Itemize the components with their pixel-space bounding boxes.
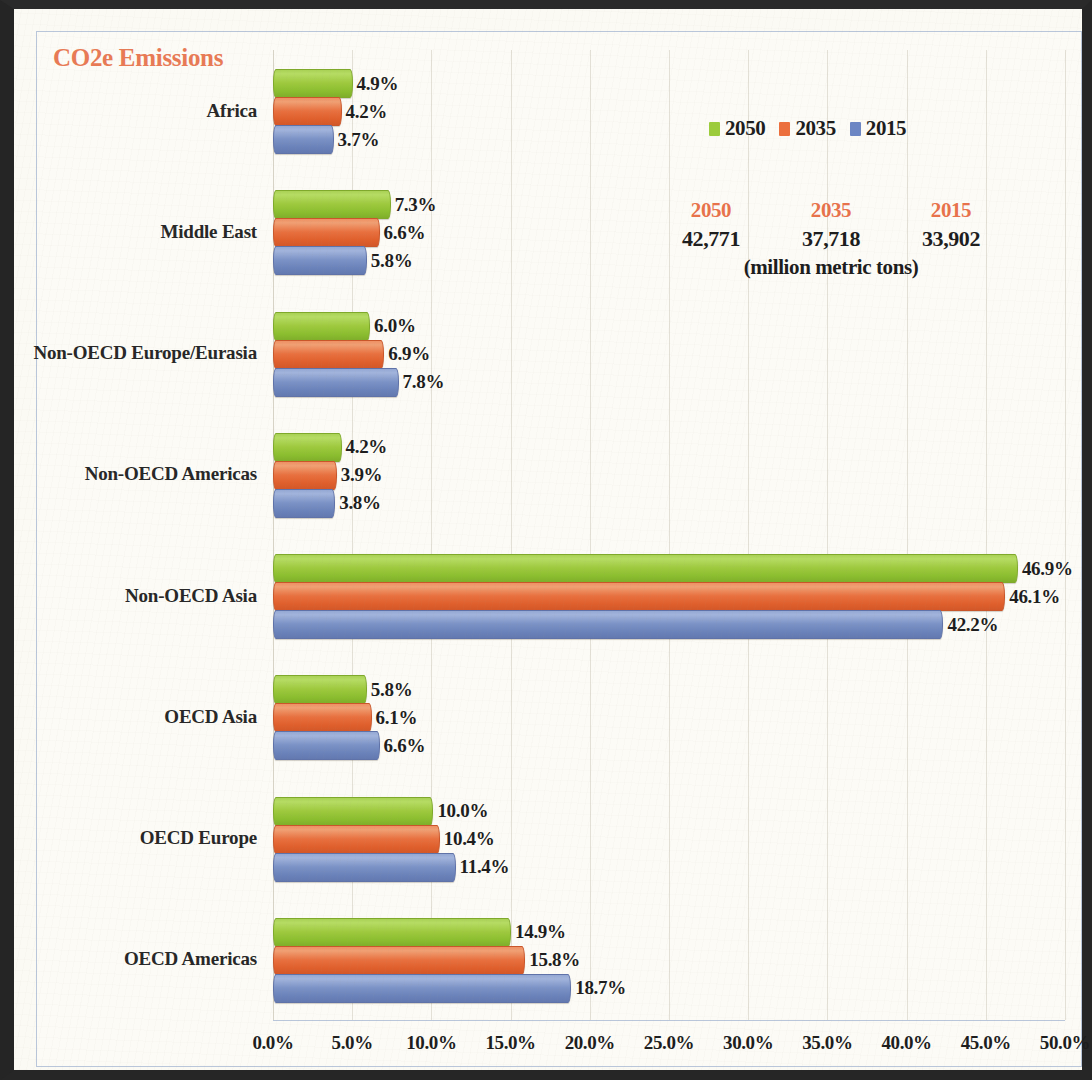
x-axis-tick: 15.0% [485, 1032, 535, 1054]
legend-label: 2050 [725, 116, 765, 141]
bar-value-label: 6.6% [384, 222, 426, 244]
gridline [1065, 50, 1066, 1020]
bar-value-label: 15.8% [529, 949, 580, 971]
legend-swatch-icon [779, 122, 790, 136]
bar-value-label: 4.2% [346, 101, 388, 123]
legend-item-2015[interactable]: 2015 [850, 116, 906, 141]
totals-value: 33,902 [891, 226, 1011, 252]
bar-group: Non-OECD Americas4.2%3.9%3.8% [273, 433, 1065, 516]
x-axis-tick: 0.0% [252, 1032, 293, 1054]
totals-value: 37,718 [771, 226, 891, 252]
bar-row: 4.9% [273, 69, 1065, 96]
bar-2015[interactable]: 3.7% [273, 125, 334, 154]
category-label: Non-OECD Europe/Eurasia [33, 342, 257, 364]
legend-label: 2015 [866, 116, 906, 141]
bar-2015[interactable]: 6.6% [273, 731, 380, 760]
bar-group: Non-OECD Europe/Eurasia6.0%6.9%7.8% [273, 312, 1065, 395]
bar-row: 6.1% [273, 703, 1065, 730]
bar-row: 3.9% [273, 461, 1065, 488]
bar-group: OECD Asia5.8%6.1%6.6% [273, 675, 1065, 758]
bar-value-label: 10.4% [444, 828, 495, 850]
x-axis-tick: 45.0% [961, 1032, 1011, 1054]
totals-annotation: 205020352015 42,77137,71833,902 (million… [651, 198, 1011, 280]
category-label: Middle East [160, 221, 257, 243]
bar-value-label: 5.8% [371, 250, 413, 272]
bar-value-label: 6.1% [376, 707, 418, 729]
paper-surface: CO2e Emissions Africa4.9%4.2%3.7%Middle … [14, 9, 1082, 1070]
bar-value-label: 3.9% [341, 464, 383, 486]
bar-2050[interactable]: 14.9% [273, 918, 511, 947]
bar-row: 6.6% [273, 731, 1065, 758]
bar-2050[interactable]: 7.3% [273, 190, 391, 219]
bar-value-label: 7.8% [403, 371, 445, 393]
legend-swatch-icon [850, 122, 861, 136]
totals-year-label: 2015 [891, 198, 1011, 223]
bar-row: 14.9% [273, 918, 1065, 945]
x-axis-tick: 25.0% [644, 1032, 694, 1054]
bar-value-label: 3.8% [339, 492, 381, 514]
legend-item-2035[interactable]: 2035 [779, 116, 835, 141]
bar-row: 3.7% [273, 125, 1065, 152]
bar-row: 10.0% [273, 797, 1065, 824]
bar-value-label: 11.4% [460, 856, 510, 878]
bar-2035[interactable]: 6.6% [273, 218, 380, 247]
bar-2015[interactable]: 3.8% [273, 489, 335, 518]
bar-row: 3.8% [273, 489, 1065, 516]
bar-value-label: 6.0% [374, 315, 416, 337]
bar-value-label: 46.1% [1009, 586, 1060, 608]
bar-value-label: 14.9% [515, 921, 566, 943]
bar-value-label: 10.0% [437, 800, 488, 822]
bar-2015[interactable]: 18.7% [273, 974, 571, 1003]
bar-2050[interactable]: 10.0% [273, 797, 433, 826]
totals-year-label: 2050 [651, 198, 771, 223]
bar-row: 46.1% [273, 582, 1065, 609]
bar-2015[interactable]: 5.8% [273, 246, 367, 275]
bar-2035[interactable]: 6.9% [273, 340, 384, 369]
bar-value-label: 18.7% [575, 977, 626, 999]
bar-row: 6.9% [273, 340, 1065, 367]
category-label: OECD Americas [124, 948, 257, 970]
bar-2050[interactable]: 46.9% [273, 554, 1018, 583]
x-axis-tick: 40.0% [881, 1032, 931, 1054]
bar-value-label: 4.9% [357, 73, 399, 95]
legend: 205020352015 [709, 116, 906, 141]
bar-value-label: 7.3% [395, 194, 437, 216]
bar-value-label: 46.9% [1022, 558, 1073, 580]
x-axis-tick: 10.0% [406, 1032, 456, 1054]
bar-row: 15.8% [273, 946, 1065, 973]
legend-swatch-icon [709, 122, 720, 136]
bar-group: Non-OECD Asia46.9%46.1%42.2% [273, 554, 1065, 637]
bar-2035[interactable]: 4.2% [273, 97, 342, 126]
bar-2015[interactable]: 7.8% [273, 368, 399, 397]
bar-value-label: 3.7% [338, 129, 380, 151]
bar-2050[interactable]: 5.8% [273, 675, 367, 704]
x-axis-tick: 20.0% [565, 1032, 615, 1054]
x-axis-line [273, 1020, 1065, 1021]
bar-2035[interactable]: 15.8% [273, 946, 525, 975]
bar-group: Africa4.9%4.2%3.7% [273, 69, 1065, 152]
chart-frame: CO2e Emissions Africa4.9%4.2%3.7%Middle … [36, 31, 1082, 1067]
bar-2035[interactable]: 3.9% [273, 461, 337, 490]
totals-years-row: 205020352015 [651, 198, 1011, 223]
legend-label: 2035 [795, 116, 835, 141]
page-title: CO2e Emissions [53, 44, 223, 72]
bar-2035[interactable]: 46.1% [273, 582, 1005, 611]
bar-2050[interactable]: 4.9% [273, 69, 353, 98]
totals-units-label: (million metric tons) [651, 255, 1011, 280]
bar-2050[interactable]: 6.0% [273, 312, 370, 341]
category-label: Non-OECD Asia [125, 585, 257, 607]
bar-2015[interactable]: 42.2% [273, 610, 943, 639]
category-label: Africa [207, 100, 258, 122]
legend-item-2050[interactable]: 2050 [709, 116, 765, 141]
category-label: OECD Europe [140, 827, 257, 849]
bar-2035[interactable]: 10.4% [273, 825, 440, 854]
bar-row: 11.4% [273, 853, 1065, 880]
bar-row: 5.8% [273, 675, 1065, 702]
bar-2015[interactable]: 11.4% [273, 853, 456, 882]
category-label: Non-OECD Americas [85, 463, 257, 485]
bar-row: 10.4% [273, 825, 1065, 852]
bar-value-label: 6.9% [388, 343, 430, 365]
bar-2035[interactable]: 6.1% [273, 703, 372, 732]
bar-row: 4.2% [273, 97, 1065, 124]
bar-2050[interactable]: 4.2% [273, 433, 342, 462]
